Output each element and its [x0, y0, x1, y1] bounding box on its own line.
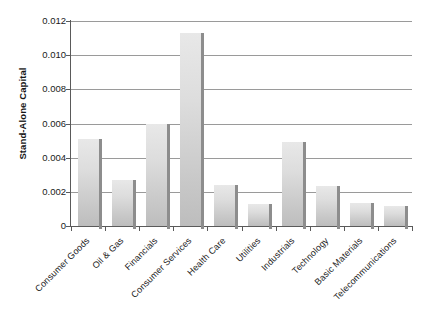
y-axis-tick-label: 0.008	[22, 84, 66, 94]
bar-shadow	[167, 124, 170, 229]
bar	[282, 142, 303, 226]
x-axis-tick-mark	[378, 226, 379, 231]
bar-shadow	[371, 203, 374, 229]
bar-chart: Stand-Alone Capital 0.0120.0100.0080.006…	[0, 0, 426, 327]
gridline	[71, 89, 412, 90]
bar	[214, 185, 235, 226]
x-axis-tick-mark	[105, 226, 106, 231]
x-axis-tick-mark	[207, 226, 208, 231]
y-axis-tick-label: 0.006	[22, 119, 66, 129]
gridline	[71, 21, 412, 22]
gridline	[71, 124, 412, 125]
x-axis-tick-mark	[276, 226, 277, 231]
bar-shadow	[133, 180, 136, 229]
y-axis-tick-label: 0.002	[22, 187, 66, 197]
x-axis-tick-mark	[173, 226, 174, 231]
bar	[248, 204, 269, 226]
y-axis-tick-label: 0.010	[22, 50, 66, 60]
bar	[384, 206, 405, 226]
bar	[350, 203, 371, 226]
y-axis-tick-mark	[66, 226, 71, 227]
x-axis-tick-mark	[242, 226, 243, 231]
gridline	[71, 55, 412, 56]
y-axis-tick-mark	[66, 158, 71, 159]
bar	[78, 139, 99, 226]
x-axis-tick-mark	[139, 226, 140, 231]
bar	[146, 124, 167, 226]
bar-shadow	[337, 186, 340, 229]
y-axis-tick-mark	[66, 89, 71, 90]
bar-shadow	[303, 142, 306, 229]
y-axis-tick-mark	[66, 124, 71, 125]
bar-shadow	[405, 206, 408, 229]
y-axis-tick-label: 0.012	[22, 16, 66, 26]
y-axis-tick-label: 0.004	[22, 153, 66, 163]
plot-area	[71, 21, 412, 226]
y-axis-tick-label: 0	[22, 221, 66, 231]
bar	[316, 186, 337, 226]
y-axis-tick-mark	[66, 192, 71, 193]
x-axis-tick-mark	[412, 226, 413, 231]
bar-shadow	[235, 185, 238, 229]
x-axis-tick-mark	[310, 226, 311, 231]
bar-shadow	[201, 33, 204, 229]
x-axis-tick-mark	[71, 226, 72, 231]
y-axis-tick-mark	[66, 55, 71, 56]
bar-shadow	[269, 204, 272, 229]
bar	[112, 180, 133, 226]
x-axis-tick-mark	[344, 226, 345, 231]
gridline	[71, 158, 412, 159]
bar-shadow	[99, 139, 102, 229]
y-axis-tick-mark	[66, 21, 71, 22]
bar	[180, 33, 201, 226]
